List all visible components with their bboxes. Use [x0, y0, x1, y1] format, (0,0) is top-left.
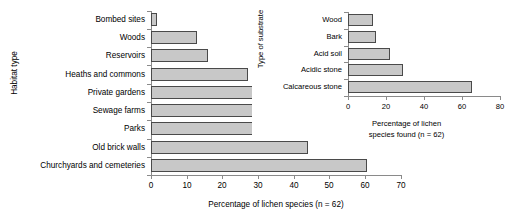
inset-bar-acid-soil [348, 48, 390, 60]
inset-y-tick [344, 29, 348, 30]
inset-y-tick [344, 62, 348, 63]
inset-x-tick-label: 0 [338, 103, 358, 111]
inset-x-axis-title-line1: Percentage of lichen [344, 119, 469, 128]
inset-x-tick-label: 40 [414, 103, 434, 111]
main-x-tick-label: 70 [391, 182, 411, 190]
inset-x-tick [500, 96, 501, 100]
inset-category-label: Acid soil [252, 50, 342, 58]
main-category-label: Parks [21, 125, 145, 133]
main-x-tick [365, 175, 366, 179]
inset-category-label: Bark [252, 33, 342, 41]
inset-x-tick [348, 96, 349, 100]
inset-x-tick-label: 20 [376, 103, 396, 111]
inset-y-tick [344, 12, 348, 13]
main-x-tick [401, 175, 402, 179]
main-y-tick [147, 29, 151, 30]
inset-x-tick [424, 96, 425, 100]
main-y-tick [147, 11, 151, 12]
main-bar-private-gardens [151, 86, 262, 99]
main-y-tick [147, 65, 151, 66]
inset-category-label: Calcareous stone [252, 83, 342, 91]
inset-y-tick [344, 46, 348, 47]
main-y-tick [147, 47, 151, 48]
main-x-tick-label: 0 [141, 182, 161, 190]
main-category-label: Private gardens [21, 89, 145, 97]
main-category-label: Old brick walls [21, 144, 145, 152]
inset-bar-bark [348, 31, 376, 43]
main-x-tick [222, 175, 223, 179]
main-x-tick-label: 20 [212, 182, 232, 190]
figure-canvas: Habitat type Bombed sites Woods Reservoi… [0, 0, 518, 222]
main-bar-bombed-sites [151, 13, 157, 26]
main-category-label: Woods [21, 34, 145, 42]
inset-x-axis-title-line2: species found (n = 62) [344, 130, 469, 139]
main-y-tick [147, 84, 151, 85]
main-x-axis-line [151, 175, 401, 176]
inset-bar-wood [348, 14, 373, 26]
main-x-tick [294, 175, 295, 179]
main-x-tick-label: 10 [177, 182, 197, 190]
inset-x-tick [462, 96, 463, 100]
main-category-label: Churchyards and cemeteries [21, 162, 145, 170]
main-category-label: Heaths and commons [21, 71, 145, 79]
inset-chart: Type of substrate Wood Bark Acid soil Ac… [252, 0, 518, 140]
main-bar-woods [151, 31, 197, 44]
main-x-tick [187, 175, 188, 179]
inset-bar-calcareous-stone [348, 81, 472, 93]
main-x-tick [151, 175, 152, 179]
main-y-tick [147, 120, 151, 121]
inset-y-tick [344, 79, 348, 80]
main-y-tick [147, 102, 151, 103]
main-x-tick-label: 60 [355, 182, 375, 190]
main-bar-churchyards-and-cemeteries [151, 159, 367, 172]
main-y-axis-title: Habitat type [10, 23, 20, 123]
main-bar-reservoirs [151, 49, 208, 62]
main-bar-old-brick-walls [151, 141, 308, 154]
inset-x-tick-label: 60 [452, 103, 472, 111]
main-y-tick [147, 139, 151, 140]
inset-category-label: Acidic stone [252, 66, 342, 74]
main-x-tick [329, 175, 330, 179]
main-category-label: Bombed sites [21, 16, 145, 24]
main-category-label: Reservoirs [21, 52, 145, 60]
main-x-tick-label: 40 [284, 182, 304, 190]
main-x-tick-label: 30 [248, 182, 268, 190]
inset-x-tick [386, 96, 387, 100]
inset-category-label: Wood [252, 16, 342, 24]
main-y-tick [147, 157, 151, 158]
main-bar-heaths-and-commons [151, 68, 248, 81]
inset-x-tick-label: 80 [490, 103, 510, 111]
main-x-tick-label: 50 [319, 182, 339, 190]
main-x-axis-title: Percentage of lichen species (n = 62) [156, 200, 396, 210]
inset-bar-acidic-stone [348, 64, 403, 76]
main-x-tick [258, 175, 259, 179]
main-category-label: Sewage farms [21, 107, 145, 115]
